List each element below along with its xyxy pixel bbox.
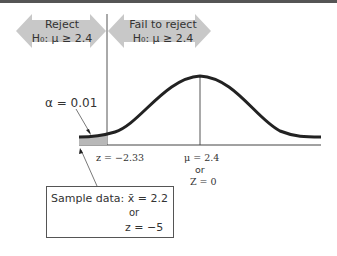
fail-to-reject-label: Fail to reject H₀: μ ≥ 2.4 (120, 18, 206, 46)
alpha-arrowhead-icon (86, 129, 91, 135)
sample-pointer-line (81, 150, 97, 186)
sample-data-line1: Sample data: x̄ = 2.2 (51, 192, 168, 205)
reject-label-line1: Reject (26, 18, 98, 32)
sample-data-or: or (129, 207, 139, 218)
z-zero-label: Z = 0 (190, 175, 217, 188)
sample-data-box: Sample data: x̄ = 2.2 or z = −5 (46, 186, 174, 238)
reject-label: Reject H₀: μ ≥ 2.4 (26, 18, 98, 46)
sample-data-line3: z = −5 (125, 221, 163, 234)
alpha-label: α = 0.01 (45, 97, 97, 110)
critical-value-label: z = −2.33 (96, 151, 144, 164)
reject-label-line2: H₀: μ ≥ 2.4 (26, 32, 98, 46)
fail-to-reject-label-line1: Fail to reject (120, 18, 206, 32)
sample-arrowhead-icon (79, 148, 83, 154)
fail-to-reject-label-line2: H₀: μ ≥ 2.4 (120, 32, 206, 46)
